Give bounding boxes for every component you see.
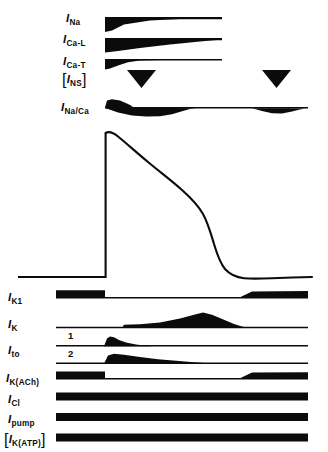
label-i-ca-l: ICa-L xyxy=(63,30,86,46)
label-i-k1-sub: K1 xyxy=(11,297,22,306)
label-i-k-atp-sub: K(ATP) xyxy=(12,439,41,448)
label-i-cl: ICl xyxy=(8,390,20,406)
label-i-to: Ito xyxy=(8,341,20,357)
label-i-ca-t-sub: Ca-T xyxy=(66,61,85,70)
i-ns-triangle-early xyxy=(127,70,156,88)
label-i-k-atp-bracket-open: [ xyxy=(4,431,9,448)
action-potential-trace xyxy=(18,132,312,279)
trace-i-k xyxy=(56,313,308,329)
label-i-ns: [INS] xyxy=(62,70,87,86)
trace-i-na xyxy=(105,17,222,32)
label-i-cl-sub: Cl xyxy=(11,399,20,408)
label-i-na: INa xyxy=(66,9,80,25)
label-i-na-ca-sub: Na/Ca xyxy=(64,107,89,116)
label-i-k1: IK1 xyxy=(8,288,22,304)
trace-i-ca-l xyxy=(105,38,222,53)
label-i-ns-sub: NS xyxy=(70,79,82,88)
label-i-ca-l-sub: Ca-L xyxy=(66,39,85,48)
label-i-k-atp: [IK(ATP)] xyxy=(4,430,46,446)
label-i-k-ach-sub: K(ACh) xyxy=(9,378,39,387)
trace-i-to-1 xyxy=(56,336,308,346)
trace-i-to-2 xyxy=(56,354,308,364)
label-i-to-subtrace-2: 2 xyxy=(68,349,73,359)
label-i-pump: Ipump xyxy=(8,410,35,426)
label-i-ns-bracket-open: [ xyxy=(62,71,67,88)
label-i-na-sub: Na xyxy=(69,18,80,27)
label-i-to-subtrace-1: 1 xyxy=(68,331,73,341)
trace-i-na-ca xyxy=(105,99,308,116)
label-i-na-ca: INa/Ca xyxy=(61,98,89,114)
trace-i-cl xyxy=(56,392,308,400)
label-i-ca-t: ICa-T xyxy=(63,52,86,68)
trace-i-k-atp xyxy=(56,434,308,442)
trace-i-ns xyxy=(127,70,291,88)
label-i-ns-bracket-close: ] xyxy=(82,71,87,88)
trace-i-k1 xyxy=(56,290,308,298)
label-i-k-atp-bracket-close: ] xyxy=(41,431,46,448)
ionic-current-figure: INa ICa-L ICa-T [INS] INa/Ca IK1 IK Ito … xyxy=(0,0,328,452)
i-ns-triangle-late xyxy=(262,70,291,88)
trace-i-pump xyxy=(56,413,308,421)
label-i-k-ach: IK(ACh) xyxy=(6,369,39,385)
figure-canvas xyxy=(0,0,328,452)
label-i-pump-sub: pump xyxy=(11,419,34,428)
trace-i-ca-t xyxy=(105,59,222,70)
label-i-k-sub: K xyxy=(11,324,17,333)
trace-i-k-ach xyxy=(56,371,308,379)
label-i-to-sub: to xyxy=(11,350,19,359)
label-i-k: IK xyxy=(8,315,18,331)
